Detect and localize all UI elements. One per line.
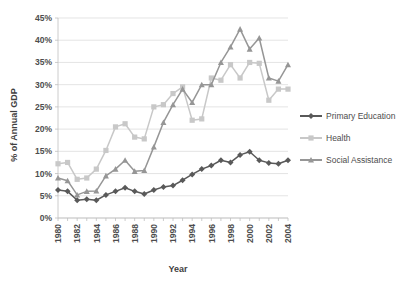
data-point-marker (170, 183, 176, 189)
data-point-marker (247, 60, 252, 65)
x-axis-tick-label: 2002 (264, 224, 274, 243)
data-point-marker (132, 188, 138, 194)
data-point-marker (93, 197, 99, 203)
y-axis-tick-label: 15% (35, 146, 52, 156)
data-point-marker (237, 26, 243, 32)
data-point-marker (161, 102, 166, 107)
y-axis-tick-labels: 0%5%10%15%20%25%30%35%40%45% (35, 13, 52, 223)
data-point-marker (266, 160, 272, 166)
x-axis-tick-labels: 1980198219841986198819901992199419961998… (53, 224, 293, 243)
x-axis-tick-label: 1988 (130, 224, 140, 243)
data-point-marker (55, 187, 61, 193)
data-point-marker (257, 61, 262, 66)
data-point-marker (122, 121, 127, 126)
line-chart: 0%5%10%15%20%25%30%35%40%45% 19801982198… (0, 0, 415, 282)
y-axis-tick-label: 40% (35, 35, 52, 45)
y-axis-tick-label: 5% (40, 191, 53, 201)
data-point-marker (151, 144, 157, 150)
data-point-marker (228, 62, 233, 67)
x-axis-tick-label: 1984 (92, 224, 102, 243)
data-point-marker (190, 118, 195, 123)
data-point-marker (218, 78, 223, 83)
data-point-marker (170, 91, 175, 96)
y-axis-tick-label: 35% (35, 57, 52, 67)
chart-container: 0%5%10%15%20%25%30%35%40%45% 19801982198… (0, 0, 415, 282)
y-axis-tick-label: 10% (35, 169, 52, 179)
series-line (58, 29, 288, 195)
x-axis-tick-label: 1992 (168, 224, 178, 243)
data-point-marker (84, 175, 89, 180)
x-axis-tick-label: 1998 (226, 224, 236, 243)
y-axis-tick-label: 30% (35, 80, 52, 90)
series-plot-area (55, 26, 291, 203)
series-social-assistance (55, 26, 291, 197)
x-axis-tick-label: 1990 (149, 224, 159, 243)
legend-item-health[interactable]: Health (300, 133, 351, 143)
legend-label: Social Assistance (326, 155, 392, 165)
legend-label: Primary Education (326, 111, 396, 121)
data-point-marker (308, 135, 313, 140)
data-point-marker (276, 87, 281, 92)
x-axis-tick-label: 1994 (187, 224, 197, 243)
y-axis-tick-label: 45% (35, 13, 52, 23)
data-point-marker (160, 184, 166, 190)
y-axis-tick-label: 25% (35, 102, 52, 112)
x-axis-tick-label: 2004 (283, 224, 293, 243)
x-axis-tick-label: 1980 (53, 224, 63, 243)
data-point-marker (237, 75, 242, 80)
x-axis-title: Year (168, 264, 188, 274)
series-line (58, 152, 288, 200)
legend-label: Health (326, 133, 351, 143)
y-axis-tick-label: 20% (35, 124, 52, 134)
data-point-marker (151, 187, 157, 193)
data-point-marker (84, 196, 90, 202)
data-point-marker (75, 177, 80, 182)
data-point-marker (103, 148, 108, 153)
x-axis-tick-label: 1986 (111, 224, 121, 243)
series-health (55, 60, 290, 182)
data-point-marker (228, 44, 234, 50)
data-point-marker (142, 136, 147, 141)
data-point-marker (199, 116, 204, 121)
x-axis-tick-label: 2000 (245, 224, 255, 243)
data-point-marker (151, 104, 156, 109)
data-point-marker (113, 188, 119, 194)
legend-item-primary-education[interactable]: Primary Education (300, 111, 396, 121)
data-point-marker (55, 175, 61, 181)
data-point-marker (285, 87, 290, 92)
x-axis-tick-label: 1982 (72, 224, 82, 243)
data-point-marker (308, 113, 314, 119)
data-point-marker (266, 98, 271, 103)
series-line (58, 62, 288, 179)
data-point-marker (122, 185, 128, 191)
data-point-marker (55, 161, 60, 166)
data-point-marker (275, 161, 281, 167)
legend-item-social-assistance[interactable]: Social Assistance (300, 155, 392, 165)
data-point-marker (132, 135, 137, 140)
data-point-marker (113, 124, 118, 129)
data-point-marker (256, 35, 262, 41)
y-axis-title: % of Annual GDP (9, 88, 19, 162)
chart-legend: Primary EducationHealthSocial Assistance (300, 111, 396, 165)
y-axis-tick-label: 0% (40, 213, 53, 223)
data-point-marker (208, 163, 214, 169)
data-point-marker (199, 166, 205, 172)
data-point-marker (285, 157, 291, 163)
x-axis-tick-label: 1996 (207, 224, 217, 243)
data-point-marker (266, 75, 272, 81)
data-point-marker (103, 192, 109, 198)
data-point-marker (160, 119, 166, 125)
series-primary-education (55, 149, 291, 203)
data-point-marker (65, 160, 70, 165)
data-point-marker (218, 157, 224, 163)
data-point-marker (94, 167, 99, 172)
data-point-marker (122, 157, 128, 163)
